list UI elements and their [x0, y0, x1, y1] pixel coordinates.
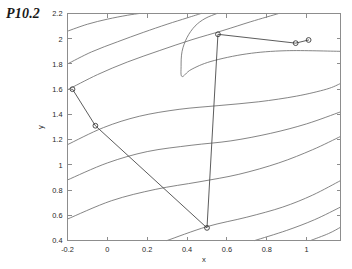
x-tick-label-6: 1: [305, 245, 309, 254]
y-tick-label-8: 2: [58, 35, 62, 44]
contour-layer: [68, 14, 341, 241]
contour-2: [68, 14, 202, 64]
contour-9: [255, 207, 341, 240]
contour-1: [68, 14, 140, 32]
x-tick-label-2: 0.2: [142, 245, 152, 254]
contour-7: [68, 136, 341, 219]
contour-4-valley: [181, 14, 341, 77]
x-tick-label-4: 0.6: [222, 245, 232, 254]
y-tick-label-9: 2.2: [52, 9, 62, 18]
contour-8: [167, 181, 340, 241]
iteration-path-line: [72, 34, 308, 228]
figure-page: P10.2 -0.200.20.40.60.81 0.40.60.811.21.…: [0, 0, 352, 269]
contour-plot: -0.200.20.40.60.81 0.40.60.811.21.41.61.…: [0, 0, 352, 269]
x-tick-label-5: 0.8: [262, 245, 272, 254]
contour-5: [68, 83, 341, 144]
x-tick-label-3: 0.4: [182, 245, 192, 254]
iteration-marker-layer: [70, 32, 311, 230]
y-tick-label-6: 1.6: [52, 85, 62, 94]
optimization-path-layer: [72, 34, 308, 228]
contour-10: [311, 227, 341, 240]
y-tick-label-3: 1: [58, 161, 62, 170]
y-tick-label-7: 1.8: [52, 60, 62, 69]
y-tick-label-4: 1.2: [52, 135, 62, 144]
x-tick-label-1: 0: [105, 245, 109, 254]
x-axis-label: x: [202, 255, 206, 264]
y-tick-label-5: 1.4: [52, 110, 62, 119]
plot-frame: [68, 14, 341, 241]
x-tick-label-0: -0.2: [61, 245, 74, 254]
contour-6: [68, 112, 341, 180]
y-tick-label-0: 0.4: [52, 236, 62, 245]
y-axis-label: y: [36, 125, 45, 129]
contour-3: [68, 14, 279, 90]
y-tick-label-2: 0.8: [52, 186, 62, 195]
y-tick-label-1: 0.6: [52, 211, 62, 220]
